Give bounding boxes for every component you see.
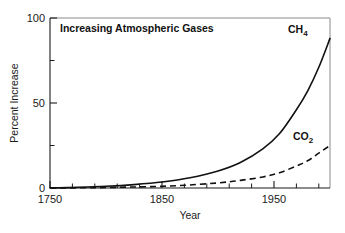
- plot-title: Increasing Atmospheric Gases: [60, 22, 214, 34]
- x-ticklabel-1750: 1750: [38, 193, 62, 205]
- x-axis-title: Year: [179, 209, 201, 221]
- atmospheric-gases-chart: 0 50 100 Percent Increase 1750 1850 1950: [0, 0, 345, 233]
- x-ticklabel-1850: 1850: [150, 193, 174, 205]
- y-ticklabel-100: 100: [27, 12, 45, 24]
- chart-figure: 0 50 100 Percent Increase 1750 1850 1950: [0, 0, 345, 233]
- y-axis-title: Percent Increase: [8, 63, 20, 143]
- y-ticklabel-50: 50: [33, 97, 45, 109]
- x-ticklabel-1950: 1950: [262, 193, 286, 205]
